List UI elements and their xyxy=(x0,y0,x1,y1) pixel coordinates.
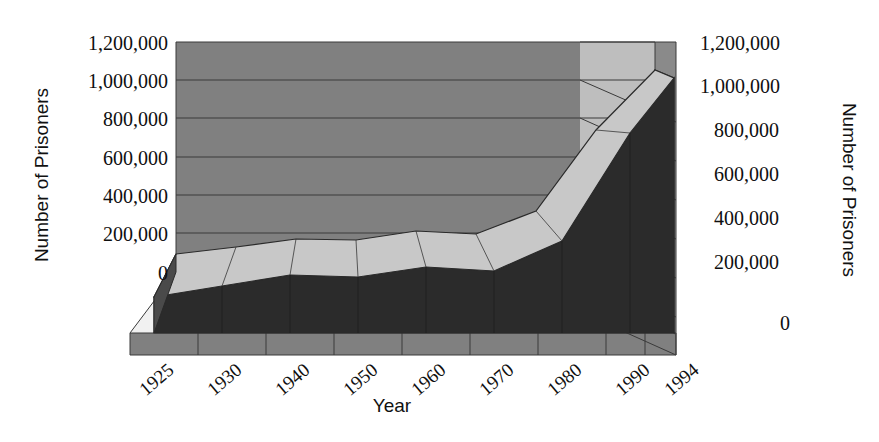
left-axis-title: Number of Prisoners xyxy=(31,88,52,262)
x-axis-ticks: 1925 1930 1940 1950 1960 1970 1980 1990 … xyxy=(135,359,703,400)
x-tick-label-1925: 1925 xyxy=(135,359,178,400)
left-axis-ticks: 1,200,000 1,000,000 800,000 600,000 400,… xyxy=(88,32,168,284)
prisoners-3d-area-chart: 1,200,000 1,000,000 800,000 600,000 400,… xyxy=(0,0,879,442)
x-axis-title: Year xyxy=(373,395,412,416)
right-tick-label-1000000: 1,000,000 xyxy=(700,75,780,97)
left-tick-label-400000: 400,000 xyxy=(103,185,168,207)
x-tick-label-1980: 1980 xyxy=(543,359,586,400)
right-tick-label-200000: 200,000 xyxy=(714,251,779,273)
x-tick-label-1994: 1994 xyxy=(660,359,703,400)
x-tick-label-1960: 1960 xyxy=(407,359,450,400)
left-tick-label-1200000: 1,200,000 xyxy=(88,32,168,54)
right-tick-label-800000: 800,000 xyxy=(714,119,779,141)
floor-front-band xyxy=(130,333,676,355)
right-axis-title: Number of Prisoners xyxy=(839,103,860,277)
chart-container: 1,200,000 1,000,000 800,000 600,000 400,… xyxy=(0,0,879,442)
x-tick-label-1990: 1990 xyxy=(611,359,654,400)
right-tick-label-600000: 600,000 xyxy=(714,163,779,185)
x-tick-label-1970: 1970 xyxy=(475,359,518,400)
right-tick-label-0: 0 xyxy=(780,312,790,334)
x-tick-label-1930: 1930 xyxy=(203,359,246,400)
left-tick-label-0: 0 xyxy=(158,262,168,284)
left-tick-label-800000: 800,000 xyxy=(103,108,168,130)
left-tick-label-200000: 200,000 xyxy=(103,223,168,245)
right-tick-label-1200000: 1,200,000 xyxy=(700,32,780,54)
right-tick-label-400000: 400,000 xyxy=(714,207,779,229)
left-tick-label-600000: 600,000 xyxy=(103,147,168,169)
x-tick-label-1940: 1940 xyxy=(271,359,314,400)
left-tick-label-1000000: 1,000,000 xyxy=(88,70,168,92)
right-axis-ticks: 1,200,000 1,000,000 800,000 600,000 400,… xyxy=(700,32,790,334)
x-tick-label-1950: 1950 xyxy=(339,359,382,400)
